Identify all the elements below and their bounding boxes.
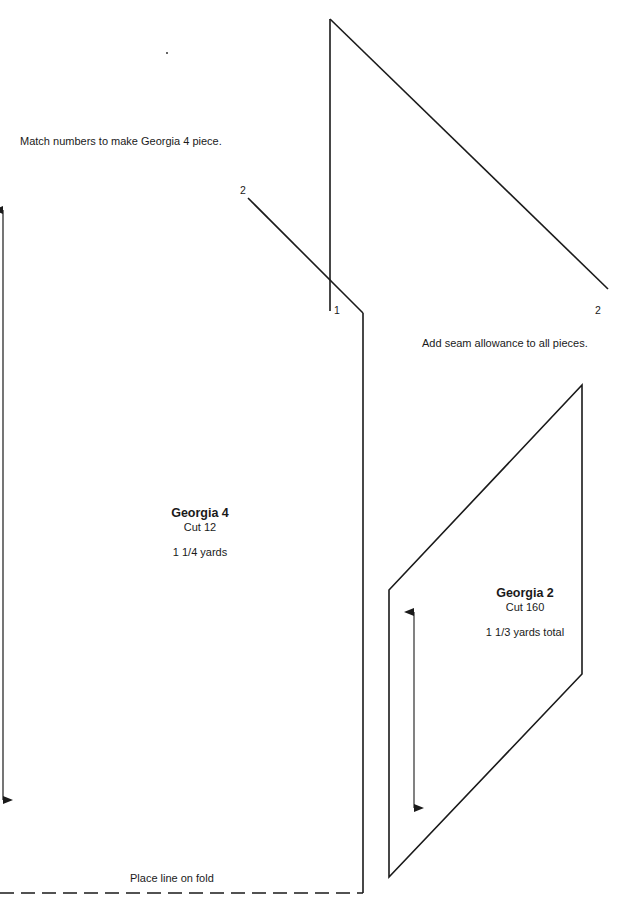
georgia-2-label: Georgia 2 Cut 160 1 1/3 yards total	[460, 586, 590, 639]
georgia-4-yardage: 1 1/4 yards	[150, 546, 250, 559]
speck-dot	[166, 52, 168, 54]
seam-allowance-instruction: Add seam allowance to all pieces.	[422, 337, 588, 350]
georgia-2-yardage: 1 1/3 yards total	[460, 626, 590, 639]
fold-instruction: Place line on fold	[130, 872, 214, 885]
georgia-4-cut: Cut 12	[150, 521, 250, 534]
georgia-2-cut: Cut 160	[460, 601, 590, 614]
match-label-1: 1	[334, 304, 340, 316]
match-numbers-instruction: Match numbers to make Georgia 4 piece.	[20, 135, 222, 148]
match-label-2-left: 2	[240, 184, 246, 196]
georgia-4-title: Georgia 4	[150, 506, 250, 521]
match-label-2-right: 2	[595, 304, 601, 316]
georgia-4-label: Georgia 4 Cut 12 1 1/4 yards	[150, 506, 250, 559]
georgia-2-title: Georgia 2	[460, 586, 590, 601]
triangle-piece	[330, 19, 608, 311]
georgia-4-outline	[248, 198, 363, 893]
